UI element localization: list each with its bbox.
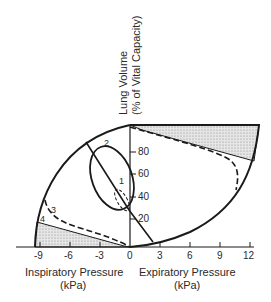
- expiratory-pressure-unit: (kPa): [174, 279, 200, 291]
- x-tick-6: 6: [187, 250, 193, 261]
- y-axis-ticks: [130, 152, 136, 219]
- y-tick-20: 20: [138, 213, 150, 224]
- x-tick-3: 3: [157, 250, 163, 261]
- y-tick-80: 80: [138, 146, 150, 157]
- y-axis-title-line1: Lung Volume: [117, 51, 129, 115]
- curve-label-1: 1: [119, 176, 124, 186]
- y-axis-title-line2: (% of Vital Capacity): [130, 16, 142, 115]
- x-tick-neg9: -9: [34, 250, 43, 261]
- curve-label-3: 3: [51, 205, 56, 215]
- x-tick-12: 12: [243, 250, 255, 261]
- y-tick-40: 40: [138, 191, 150, 202]
- shaded-region-inspiratory: [35, 222, 130, 247]
- shaded-region-expiratory: [130, 125, 259, 161]
- pressure-volume-diagram: Lung Volume (% of Vital Capacity) 20 40 …: [0, 0, 271, 302]
- inspiratory-pressure-title: Inspiratory Pressure: [25, 266, 123, 278]
- x-tick-neg3: -3: [95, 250, 104, 261]
- y-axis-title: Lung Volume (% of Vital Capacity): [117, 16, 142, 115]
- x-tick-9: 9: [217, 250, 223, 261]
- inspiratory-pressure-unit: (kPa): [60, 279, 86, 291]
- expiratory-pressure-title: Expiratory Pressure: [139, 266, 236, 278]
- curve-label-2: 2: [104, 138, 109, 148]
- curve-label-4: 4: [40, 214, 45, 224]
- x-tick-neg6: -6: [64, 250, 73, 261]
- y-tick-60: 60: [138, 168, 150, 179]
- x-tick-0: 0: [127, 250, 133, 261]
